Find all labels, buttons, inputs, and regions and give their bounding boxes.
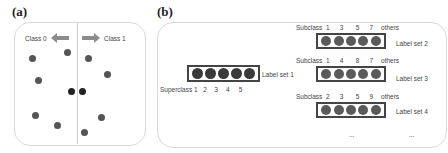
label-node xyxy=(371,105,381,115)
label-node xyxy=(321,69,331,79)
subclass-number: 8 xyxy=(351,57,363,64)
right-arrow-icon xyxy=(82,33,100,43)
label-node xyxy=(244,68,255,79)
class-0-point xyxy=(32,112,39,119)
subclass-number: 1 xyxy=(324,24,332,31)
class-0-point xyxy=(64,49,71,56)
subclass-number: 7 xyxy=(365,57,377,64)
label-node xyxy=(371,69,381,79)
class-1-point xyxy=(104,71,111,78)
label-set-3-label: Label set 3 xyxy=(396,75,428,82)
subclass-prefix: Subclass xyxy=(296,57,322,64)
superclass-number: 4 xyxy=(222,86,233,93)
subclass-number: 9 xyxy=(365,93,377,100)
subclass-number: others xyxy=(379,57,401,64)
subclass-numbers-2: Subclass 1 3 5 7 others xyxy=(296,24,401,31)
class-0-point xyxy=(29,55,36,62)
label-node xyxy=(358,69,368,79)
subclass-number: 5 xyxy=(351,24,363,31)
subclass-prefix: Subclass xyxy=(296,93,322,100)
label-node xyxy=(346,69,356,79)
label-node xyxy=(205,68,216,79)
label-node xyxy=(358,36,368,46)
label-node xyxy=(334,105,344,115)
superclass-number: 3 xyxy=(211,86,220,93)
subclass-number: 2 xyxy=(324,93,332,100)
subclass-number: others xyxy=(379,93,401,100)
subclass-number: 4 xyxy=(334,57,350,64)
label-set-1-box xyxy=(187,65,260,82)
label-node xyxy=(321,36,331,46)
subclass-number: 1 xyxy=(324,57,332,64)
class-1-point xyxy=(85,55,92,62)
label-node xyxy=(334,36,344,46)
boundary-point xyxy=(68,88,75,95)
superclass-number: 2 xyxy=(201,86,210,93)
label-set-3-box xyxy=(316,66,386,82)
class-0-point xyxy=(35,77,42,84)
superclass-numbers: Superclass 1 2 3 4 5 xyxy=(160,86,246,93)
panel-b-label: (b) xyxy=(157,4,173,20)
subclass-number: others xyxy=(379,24,401,31)
label-node xyxy=(346,36,356,46)
label-node xyxy=(334,69,344,79)
label-set-2-box xyxy=(316,33,386,49)
decision-boundary xyxy=(77,23,78,144)
class-1-label: Class 1 xyxy=(104,35,126,42)
label-node xyxy=(231,68,242,79)
left-arrow-icon xyxy=(51,33,69,43)
label-set-1-label: Label set 1 xyxy=(262,71,294,78)
class-0-point xyxy=(54,122,61,129)
ellipsis-sets: ... xyxy=(349,131,354,138)
class-1-point xyxy=(81,129,88,136)
subclass-numbers-4: Subclass 2 3 5 9 others xyxy=(296,93,401,100)
subclass-prefix: Subclass xyxy=(296,24,322,31)
label-node xyxy=(321,105,331,115)
superclass-number: 5 xyxy=(235,86,246,93)
superclass-prefix: Superclass xyxy=(160,86,191,93)
boundary-point xyxy=(79,88,86,95)
label-node xyxy=(358,105,368,115)
superclass-number: 1 xyxy=(193,86,199,93)
class-0-label: Class 0 xyxy=(25,35,47,42)
label-node xyxy=(192,68,203,79)
subclass-number: 3 xyxy=(334,24,350,31)
ellipsis-labels: ... xyxy=(409,131,414,138)
label-node xyxy=(346,105,356,115)
subclass-number: 3 xyxy=(334,93,350,100)
label-set-4-label: Label set 4 xyxy=(396,108,428,115)
label-node xyxy=(218,68,229,79)
panel-a-label: (a) xyxy=(12,4,27,20)
subclass-number: 7 xyxy=(365,24,377,31)
label-set-2-label: Label set 2 xyxy=(396,40,428,47)
subclass-numbers-3: Subclass 1 4 8 7 others xyxy=(296,57,401,64)
subclass-number: 5 xyxy=(351,93,363,100)
label-set-4-box xyxy=(316,102,386,118)
label-node xyxy=(371,36,381,46)
class-1-point xyxy=(98,114,105,121)
